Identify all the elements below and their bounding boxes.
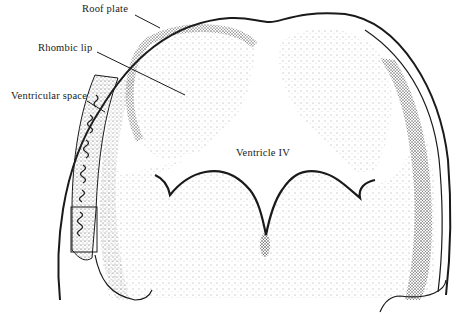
leader-roof-plate (135, 15, 160, 28)
label-ventricular-space: Ventricular space (11, 90, 87, 101)
hindbrain-diagram: Roof plate Rhombic lip Ventricular space… (0, 0, 471, 322)
label-rhombic-lip: Rhombic lip (38, 42, 92, 53)
label-ventricle-iv: Ventricle IV (236, 147, 290, 158)
median-sulcus (260, 233, 270, 257)
label-roof-plate: Roof plate (82, 3, 128, 14)
